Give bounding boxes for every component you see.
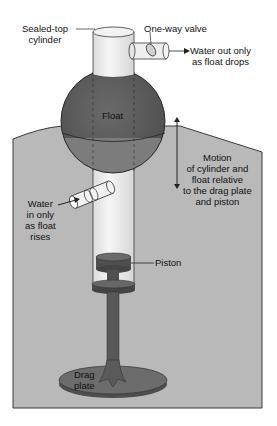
label-sealed-top-cylinder: Sealed-top cylinder [22,23,68,45]
label-float: Float [102,110,123,121]
label-water-out: Water out only as float drops [190,45,251,67]
label-water-in: Water in only as float rises [25,198,56,242]
outlet-valve [129,32,190,59]
float-sphere [61,69,165,173]
label-piston: Piston [155,257,181,268]
label-drag-plate: Drag plate [74,369,95,391]
label-motion: Motion of cylinder and float relative to… [183,152,252,207]
sealed-top-cylinder [93,27,134,78]
label-one-way-valve: One-way valve [144,23,207,34]
